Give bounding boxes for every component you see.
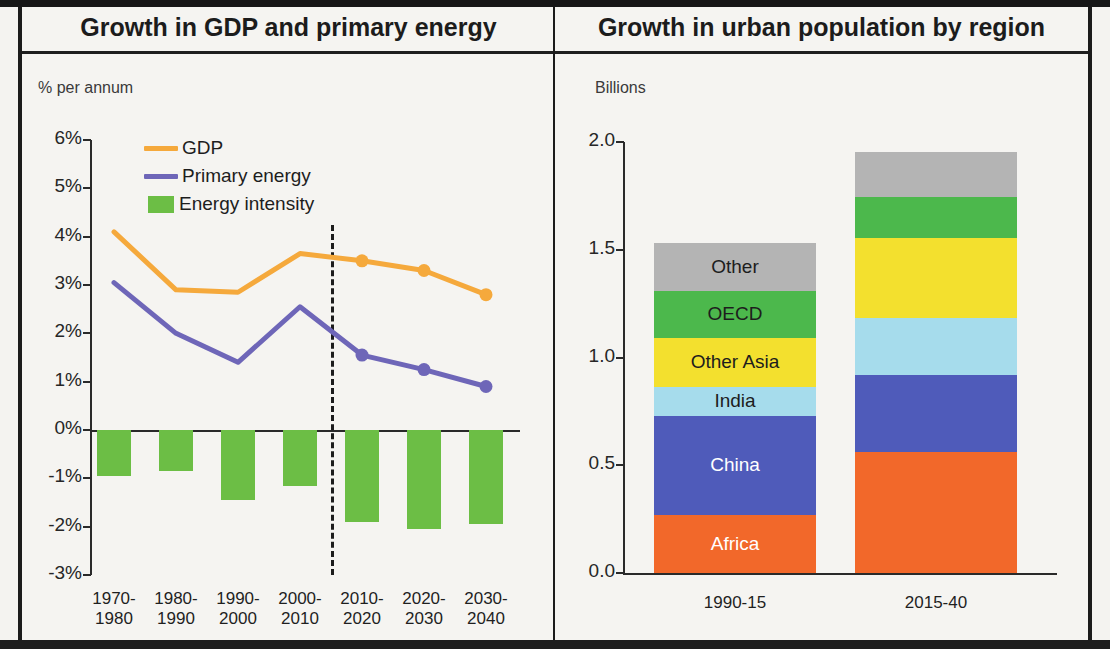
stacked-segment-label: OECD	[708, 303, 763, 325]
x-axis-tick-label: 1990-15	[665, 593, 805, 613]
legend-item: GDP	[144, 134, 314, 162]
series-point-marker	[356, 254, 369, 267]
y-axis-tick-label: 1.0	[553, 345, 615, 367]
stacked-segment-label: Other Asia	[691, 351, 780, 373]
y-axis-tick-label: 0.0	[553, 560, 615, 582]
stacked-bar-segment	[855, 318, 1017, 375]
stacked-segment-label: China	[710, 454, 760, 476]
stacked-bar-segment	[855, 152, 1017, 197]
left-chart-panel: Growth in GDP and primary energy % per a…	[18, 7, 555, 640]
y-axis-tick	[616, 464, 624, 466]
stacked-bar-segment	[855, 238, 1017, 318]
legend-line-swatch	[144, 146, 178, 151]
stacked-bar-segment	[855, 452, 1017, 573]
stacked-segment-label: India	[714, 390, 755, 412]
stacked-segment-label: Other	[711, 256, 759, 278]
series-point-marker	[480, 288, 493, 301]
urban-population-plot: 2.01.51.00.50.0AfricaChinaIndiaOther Asi…	[555, 7, 1092, 640]
right-chart-panel: Growth in urban population by region Bil…	[555, 7, 1092, 640]
stacked-bar-segment	[855, 375, 1017, 453]
stacked-bar-segment	[855, 197, 1017, 238]
series-point-marker	[356, 349, 369, 362]
stacked-bar-segment: Africa	[654, 515, 816, 573]
y-axis-tick	[616, 249, 624, 251]
x-axis-baseline	[623, 573, 1057, 575]
stacked-bar-segment: Other	[654, 243, 816, 290]
series-point-marker	[418, 363, 431, 376]
legend-item: Primary energy	[144, 162, 314, 190]
legend-item-label: Primary energy	[182, 165, 311, 187]
stacked-bar-segment: Other Asia	[654, 338, 816, 386]
stacked-bar-segment: OECD	[654, 291, 816, 338]
x-axis-tick-label: 2015-40	[866, 593, 1006, 613]
gdp-energy-plot: 6%5%4%3%2%1%0%-1%-2%-3%1970-19801980-199…	[22, 7, 559, 640]
chart-page: Growth in GDP and primary energy % per a…	[0, 0, 1110, 649]
legend-item-label: GDP	[182, 137, 223, 159]
stacked-bar-segment: China	[654, 416, 816, 515]
legend-box-swatch	[148, 196, 174, 213]
left-chart-legend: GDPPrimary energyEnergy intensity	[144, 134, 314, 218]
legend-item-label: Energy intensity	[179, 193, 314, 215]
gdp-energy-series-layer	[22, 7, 559, 640]
y-axis-tick	[616, 357, 624, 359]
series-point-marker	[418, 264, 431, 277]
y-axis-tick	[616, 141, 624, 143]
stacked-bar-segment: India	[654, 387, 816, 416]
y-axis-tick-label: 2.0	[553, 129, 615, 151]
legend-line-swatch	[144, 174, 178, 179]
series-point-marker	[480, 380, 493, 393]
y-axis-tick-label: 1.5	[553, 237, 615, 259]
gdp-line	[114, 232, 486, 295]
stacked-segment-label: Africa	[711, 533, 760, 555]
y-axis-tick-label: 0.5	[553, 452, 615, 474]
legend-item: Energy intensity	[144, 190, 314, 218]
